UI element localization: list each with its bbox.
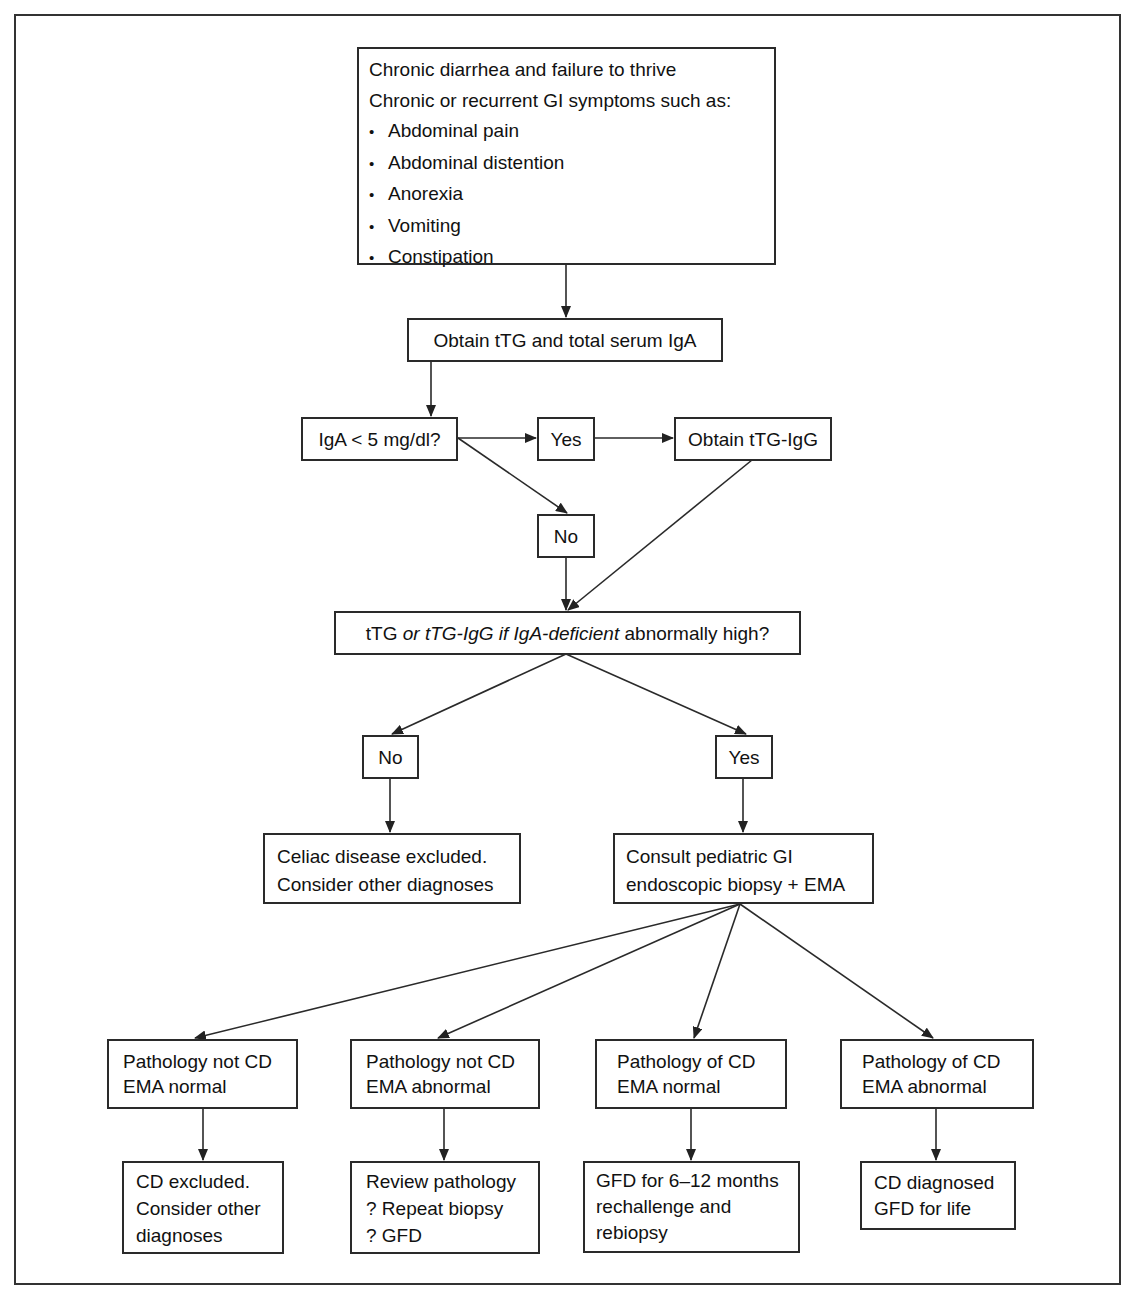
ttg-no-label: No: [378, 745, 402, 770]
obtain-ttg-label: Obtain tTG and total serum IgA: [434, 328, 697, 353]
ttg-question-part1: tTG: [366, 623, 403, 644]
outcome-condition-box: Pathology of CD EMA abnormal: [840, 1039, 1034, 1109]
iga-question-box: IgA < 5 mg/dl?: [301, 417, 458, 461]
action-line: diagnoses: [136, 1222, 270, 1249]
symptom-item: Abdominal distention: [369, 148, 764, 180]
outcome-action-box: CD excluded. Consider other diagnoses: [122, 1161, 284, 1254]
outcome-action-box: GFD for 6–12 months rechallenge and rebi…: [583, 1161, 800, 1253]
action-line: Consider other: [136, 1195, 270, 1222]
action-line: ? Repeat biopsy: [366, 1195, 524, 1222]
symptoms-line-1: Chronic diarrhea and failure to thrive: [369, 55, 764, 86]
consult-line-2: endoscopic biopsy + EMA: [626, 871, 861, 899]
symptom-item: Anorexia: [369, 179, 764, 211]
iga-yes-box: Yes: [537, 417, 595, 461]
condition-line-1: Pathology not CD: [366, 1049, 524, 1074]
ttg-no-box: No: [362, 735, 419, 779]
ttg-yes-box: Yes: [715, 735, 773, 779]
symptoms-line-2: Chronic or recurrent GI symptoms such as…: [369, 86, 764, 117]
obtain-ttg-box: Obtain tTG and total serum IgA: [407, 318, 723, 362]
action-line: rechallenge and: [596, 1194, 787, 1220]
symptom-item: Vomiting: [369, 211, 764, 243]
obtain-ttg-igg-label: Obtain tTG-IgG: [688, 427, 818, 452]
ttg-question-italic: or tTG-IgG if IgA-deficient: [403, 623, 619, 644]
outcome-condition-box: Pathology not CD EMA abnormal: [350, 1039, 540, 1109]
condition-line-2: EMA abnormal: [862, 1074, 1012, 1099]
celiac-excluded-line-1: Celiac disease excluded.: [277, 843, 507, 871]
presenting-symptoms-box: Chronic diarrhea and failure to thrive C…: [357, 47, 776, 265]
iga-no-box: No: [537, 514, 595, 558]
action-line: GFD for life: [874, 1196, 1002, 1222]
ttg-question-part3: abnormally high?: [619, 623, 769, 644]
symptom-item: Abdominal pain: [369, 116, 764, 148]
celiac-excluded-line-2: Consider other diagnoses: [277, 871, 507, 899]
iga-yes-label: Yes: [551, 427, 582, 452]
condition-line-2: EMA abnormal: [366, 1074, 524, 1099]
ttg-question-box: tTG or tTG-IgG if IgA-deficient abnormal…: [334, 611, 801, 655]
action-line: rebiopsy: [596, 1220, 787, 1246]
action-line: CD diagnosed: [874, 1170, 1002, 1196]
action-line: ? GFD: [366, 1222, 524, 1249]
iga-question-label: IgA < 5 mg/dl?: [319, 427, 441, 452]
ttg-question-label: tTG or tTG-IgG if IgA-deficient abnormal…: [366, 621, 769, 646]
condition-line-1: Pathology not CD: [123, 1049, 282, 1074]
consult-line-1: Consult pediatric GI: [626, 843, 861, 871]
condition-line-1: Pathology of CD: [862, 1049, 1012, 1074]
action-line: CD excluded.: [136, 1168, 270, 1195]
outcome-action-box: CD diagnosed GFD for life: [860, 1161, 1016, 1230]
condition-line-1: Pathology of CD: [617, 1049, 765, 1074]
celiac-excluded-box: Celiac disease excluded. Consider other …: [263, 833, 521, 904]
obtain-ttg-igg-box: Obtain tTG-IgG: [674, 417, 832, 461]
consult-gi-box: Consult pediatric GI endoscopic biopsy +…: [613, 833, 874, 904]
outcome-condition-box: Pathology of CD EMA normal: [595, 1039, 787, 1109]
iga-no-label: No: [554, 524, 578, 549]
outcome-condition-box: Pathology not CD EMA normal: [107, 1039, 298, 1109]
ttg-yes-label: Yes: [729, 745, 760, 770]
condition-line-2: EMA normal: [617, 1074, 765, 1099]
action-line: Review pathology: [366, 1168, 524, 1195]
action-line: GFD for 6–12 months: [596, 1168, 787, 1194]
condition-line-2: EMA normal: [123, 1074, 282, 1099]
symptom-item: Constipation: [369, 242, 764, 274]
outcome-action-box: Review pathology ? Repeat biopsy ? GFD: [350, 1161, 540, 1254]
